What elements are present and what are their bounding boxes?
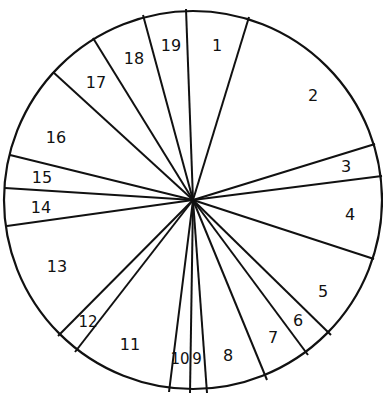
- sector-label-9: 9: [192, 350, 202, 368]
- sector-boundary-line: [193, 200, 308, 355]
- sector-boundary-line: [53, 72, 193, 200]
- sector-label-10: 10: [170, 350, 189, 368]
- sector-label-16: 16: [46, 128, 66, 147]
- sector-boundary-line: [193, 176, 382, 200]
- sector-label-14: 14: [31, 198, 51, 217]
- sector-label-3: 3: [341, 157, 351, 176]
- sector-label-1: 1: [212, 36, 222, 55]
- sector-label-7: 7: [268, 328, 278, 347]
- sector-label-17: 17: [86, 73, 106, 92]
- sector-label-15: 15: [32, 168, 52, 187]
- sector-boundary-line: [193, 200, 331, 335]
- sector-label-2: 2: [308, 86, 318, 105]
- sector-label-19: 19: [161, 36, 181, 55]
- sector-label-5: 5: [318, 282, 328, 301]
- sector-label-13: 13: [47, 257, 67, 276]
- sector-boundary-line: [186, 9, 193, 200]
- sector-label-11: 11: [120, 335, 140, 354]
- sector-label-8: 8: [223, 346, 233, 365]
- segmented-circle-diagram: 1 2 3 4 5 6 7 8 9 10 11 12 13 14 15 16 1…: [0, 0, 383, 406]
- sector-label-4: 4: [345, 205, 355, 224]
- sector-label-6: 6: [293, 311, 303, 330]
- sector-label-18: 18: [124, 49, 144, 68]
- sector-label-12: 12: [78, 313, 97, 331]
